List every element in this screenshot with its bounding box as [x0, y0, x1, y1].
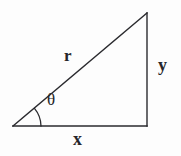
horizontal-leg-label: x: [73, 130, 82, 148]
angle-theta-label: θ: [47, 91, 55, 108]
angle-arc: [34, 108, 41, 126]
hypotenuse-label: r: [64, 47, 72, 64]
triangle-figure: r y x θ: [0, 0, 181, 156]
triangle-hypotenuse-line: [13, 13, 147, 126]
triangle-drawing: [0, 0, 181, 156]
vertical-leg-label: y: [158, 56, 167, 74]
